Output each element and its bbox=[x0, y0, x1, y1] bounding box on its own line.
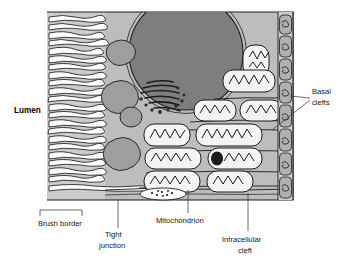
mitochondrion bbox=[196, 124, 262, 146]
label-intracellular-cleft-line1: Intracellular bbox=[222, 235, 262, 244]
basal-cleft-cell bbox=[280, 177, 292, 198]
mitochondrion bbox=[144, 124, 190, 146]
basal-cleft-cell bbox=[280, 36, 292, 57]
basal-cleft-cell bbox=[280, 15, 292, 34]
mitochondrion bbox=[207, 171, 253, 192]
secretory-vesicle bbox=[140, 188, 186, 200]
basal-cleft-cell bbox=[280, 153, 292, 175]
basal-cleft-cell bbox=[280, 59, 292, 80]
label-basal-clefts-line2: clefts bbox=[312, 98, 330, 107]
nucleus bbox=[126, 0, 247, 114]
label-brush-border: Brush border bbox=[38, 219, 82, 228]
label-mitochondrion: Mitochondrion bbox=[156, 216, 204, 225]
figure-canvas: Lumen Brush border Tight junction Mitoch… bbox=[0, 0, 348, 264]
label-tight-junction-line1: Tight bbox=[105, 230, 122, 239]
mitochondrion bbox=[208, 148, 262, 169]
mitochondrion bbox=[194, 100, 236, 121]
organelle-vesicle-small bbox=[120, 107, 142, 127]
organelle-vesicle bbox=[103, 138, 140, 171]
basal-cleft-cell bbox=[280, 129, 292, 151]
basal-cleft-cell bbox=[280, 82, 292, 103]
lateral-cleft-stack bbox=[278, 12, 293, 200]
label-intracellular-cleft-line2: cleft bbox=[238, 246, 253, 255]
mitochondrion bbox=[145, 148, 201, 169]
mitochondrion bbox=[240, 100, 282, 121]
mitochondrion bbox=[223, 70, 275, 92]
label-basal-clefts-line1: Basal bbox=[312, 87, 331, 96]
label-lumen: Lumen bbox=[14, 106, 41, 115]
epithelial-cell-diagram: Lumen Brush border Tight junction Mitoch… bbox=[0, 0, 348, 264]
label-tight-junction-line2: junction bbox=[98, 241, 125, 250]
